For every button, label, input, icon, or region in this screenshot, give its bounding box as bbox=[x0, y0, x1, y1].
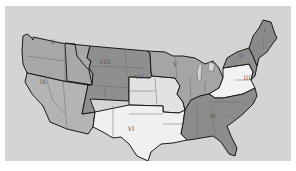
region-label-vi: VI bbox=[127, 125, 135, 132]
region-vi[interactable] bbox=[93, 105, 187, 161]
region-label-ix: IX bbox=[40, 78, 47, 85]
region-label-viii: VIII bbox=[98, 58, 111, 65]
region-label-v: V bbox=[172, 60, 178, 67]
region-label-x: X bbox=[51, 38, 56, 45]
region-label-ii: II bbox=[239, 52, 244, 59]
region-label-vii: VII bbox=[133, 73, 144, 80]
region-label-iv: IV bbox=[210, 112, 217, 119]
region-label-iii: III bbox=[243, 74, 251, 81]
map-canvas: X IX VIII VII VI V IV III II I bbox=[5, 6, 291, 161]
us-regions-map: X IX VIII VII VI V IV III II I bbox=[5, 6, 291, 161]
